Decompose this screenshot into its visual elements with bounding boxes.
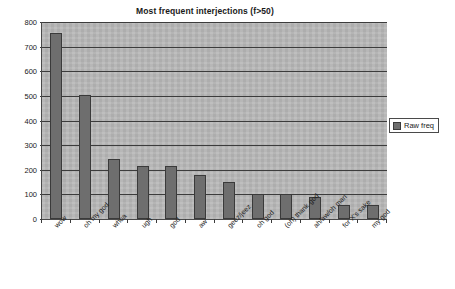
bar-slot [42,22,71,219]
chart-container: Most frequent interjections (f>50) 01002… [0,0,455,289]
bar-slot [100,22,129,219]
y-axis-tick-label: 0 [7,215,37,224]
bar[interactable] [79,95,91,219]
x-axis-tick-mark [156,219,157,223]
y-axis-tick-label: 700 [7,42,37,51]
legend: Raw freq [389,118,439,133]
y-axis-tick-label: 100 [7,190,37,199]
bar-slot [215,22,244,219]
y-axis-tick-label: 600 [7,67,37,76]
bar[interactable] [165,166,177,219]
bar-slot [186,22,215,219]
bar[interactable] [223,182,235,219]
y-axis-tick-label: 400 [7,116,37,125]
y-axis: 0100200300400500600700800 [3,22,37,220]
x-axis-tick-mark [214,219,215,223]
bar[interactable] [194,175,206,219]
x-axis-tick-mark [127,219,128,223]
x-axis-tick-mark [41,219,42,223]
bar[interactable] [50,33,62,219]
legend-label-raw-freq: Raw freq [404,121,434,130]
bar-slot [330,22,359,219]
bar-slot [128,22,157,219]
y-axis-tick-label: 200 [7,165,37,174]
bar-slot [301,22,330,219]
bar[interactable] [137,166,149,219]
bar-slot [272,22,301,219]
bar-slot [243,22,272,219]
x-axis-tick-mark [99,219,100,223]
bar-slot [358,22,387,219]
plot-area [41,22,387,220]
x-axis-tick-mark [386,219,387,223]
x-axis-tick-mark [300,219,301,223]
bars-layer [42,22,387,219]
x-axis-tick-mark [357,219,358,223]
x-axis-tick-mark [185,219,186,223]
x-axis-tick-mark [70,219,71,223]
x-axis-tick-mark [271,219,272,223]
x-axis-tick-mark [242,219,243,223]
bar-slot [157,22,186,219]
chart-title: Most frequent interjections (f>50) [40,6,370,16]
bar[interactable] [252,194,264,219]
bar[interactable] [108,159,120,219]
y-axis-tick-label: 500 [7,91,37,100]
y-axis-tick-label: 300 [7,141,37,150]
x-axis-labels: wowoh my godwhoaughgodawgeez/jeezoh god(… [41,224,387,286]
y-axis-tick-label: 800 [7,18,37,27]
bar-slot [71,22,100,219]
x-axis-tick-mark [329,219,330,223]
legend-swatch-icon [393,122,401,130]
